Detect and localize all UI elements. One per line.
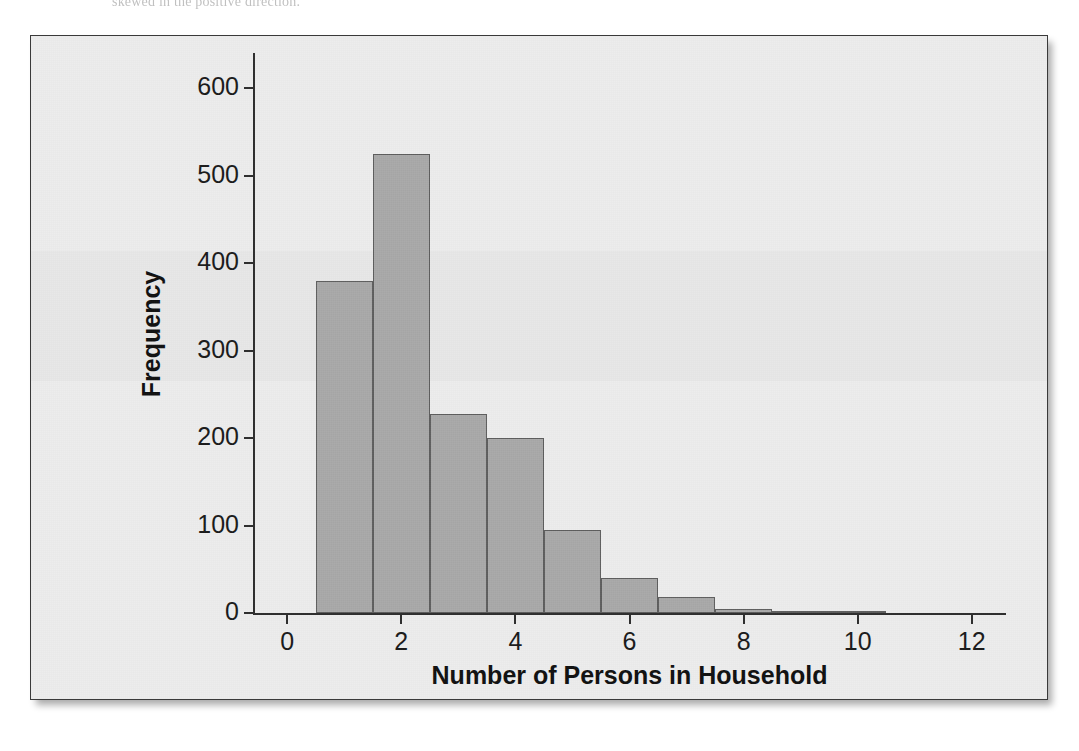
x-tick-mark	[743, 615, 745, 624]
histogram-bar	[316, 281, 373, 614]
y-tick-label: 500	[169, 160, 239, 189]
x-axis-title: Number of Persons in Household	[253, 661, 1006, 690]
y-axis-line	[253, 53, 255, 615]
x-tick-mark	[629, 615, 631, 624]
x-tick-mark	[286, 615, 288, 624]
y-tick-label: 400	[169, 247, 239, 276]
x-tick-mark	[971, 615, 973, 624]
y-tick-label: 200	[169, 422, 239, 451]
x-tick-label: 2	[371, 627, 431, 656]
y-tick-mark	[244, 525, 253, 527]
y-tick-label: 100	[169, 510, 239, 539]
y-tick-mark	[244, 262, 253, 264]
x-tick-label: 4	[485, 627, 545, 656]
x-tick-label: 10	[828, 627, 888, 656]
y-axis-title: Frequency	[137, 271, 166, 397]
y-tick-mark	[244, 175, 253, 177]
histogram-plot-area: 0100200300400500600 024681012 Number of …	[31, 36, 1049, 701]
x-tick-label: 8	[714, 627, 774, 656]
histogram-bar	[772, 611, 829, 613]
x-tick-mark	[514, 615, 516, 624]
y-tick-mark	[244, 350, 253, 352]
x-tick-mark	[400, 615, 402, 624]
x-tick-label: 0	[257, 627, 317, 656]
histogram-bar	[487, 438, 544, 613]
histogram-bar	[430, 414, 487, 613]
figure-frame: 0100200300400500600 024681012 Number of …	[30, 35, 1048, 700]
histogram-bar	[373, 154, 430, 613]
page-caption-text: skewed in the positive direction.	[112, 0, 300, 10]
histogram-bar	[829, 611, 886, 613]
x-tick-label: 12	[942, 627, 1002, 656]
y-tick-mark	[244, 437, 253, 439]
histogram-bar	[544, 530, 601, 613]
y-tick-label: 300	[169, 335, 239, 364]
histogram-bar	[601, 578, 658, 613]
y-tick-label: 0	[169, 597, 239, 626]
x-tick-label: 6	[600, 627, 660, 656]
histogram-bar	[658, 597, 715, 613]
x-tick-mark	[857, 615, 859, 624]
y-tick-label: 600	[169, 72, 239, 101]
y-tick-mark	[244, 87, 253, 89]
histogram-bar	[715, 609, 772, 613]
y-tick-mark	[244, 612, 253, 614]
